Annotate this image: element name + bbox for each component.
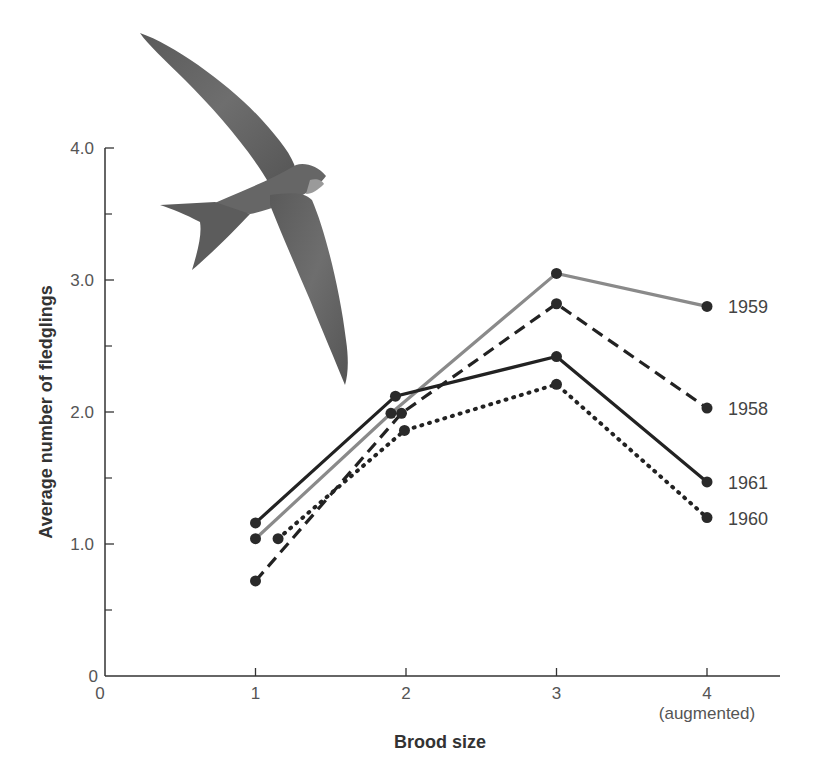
series-line (278, 384, 707, 538)
data-point (273, 533, 284, 544)
y-tick-label: 4.0 (70, 139, 94, 158)
data-point (551, 351, 562, 362)
y-tick-label: 3.0 (70, 271, 94, 290)
y-tick-label: 1.0 (70, 535, 94, 554)
y-ticks: 01.02.03.04.0 (70, 139, 114, 686)
series-label: 1960 (728, 509, 768, 529)
data-point (551, 379, 562, 390)
x-tick-sublabel: (augmented) (659, 704, 755, 723)
x-tick-label: 3 (552, 684, 561, 703)
series-label: 1959 (728, 297, 768, 317)
data-point (399, 425, 410, 436)
data-point (390, 391, 401, 402)
data-point (702, 403, 713, 414)
data-point (702, 512, 713, 523)
data-point (250, 575, 261, 586)
y-tick-label: 2.0 (70, 403, 94, 422)
series-line (256, 357, 708, 523)
data-point (551, 268, 562, 279)
data-point (702, 476, 713, 487)
data-point (250, 517, 261, 528)
swift-bird-illustration (140, 33, 348, 385)
series-label: 1961 (728, 473, 768, 493)
data-point (551, 298, 562, 309)
series-line (256, 304, 708, 581)
x-tick-label: 0 (95, 684, 104, 703)
x-tick-label: 1 (251, 684, 260, 703)
series-label: 1958 (728, 399, 768, 419)
data-point (250, 533, 261, 544)
series-1960: 1960 (273, 379, 768, 544)
line-chart: 01.02.03.04.0 01234(augmented) 195919581… (0, 0, 814, 783)
x-tick-label: 2 (401, 684, 410, 703)
x-tick-label: 4 (702, 684, 711, 703)
y-axis-title: Average number of fledglings (36, 285, 56, 538)
x-axis-title: Brood size (394, 732, 486, 752)
data-point (396, 408, 407, 419)
data-point (385, 408, 396, 419)
axes: 01.02.03.04.0 01234(augmented) (70, 139, 780, 723)
data-point (702, 301, 713, 312)
